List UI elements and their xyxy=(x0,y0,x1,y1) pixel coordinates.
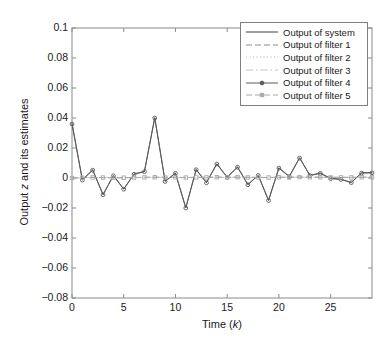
legend-item: Output of filter 4 xyxy=(244,76,364,89)
legend-line-sample xyxy=(244,26,280,38)
y-axis-tick-label: 0.1 xyxy=(28,21,68,33)
x-axis-tick-label: 0 xyxy=(57,301,87,313)
x-axis-tick-label: 25 xyxy=(316,301,346,313)
legend-label: Output of system xyxy=(280,27,355,38)
legend-line-sample xyxy=(244,39,280,51)
chart-legend: Output of systemOutput of filter 1Output… xyxy=(240,22,368,106)
legend-label: Output of filter 2 xyxy=(280,52,351,63)
x-axis-label-suffix: ) xyxy=(238,318,242,330)
y-axis-tick-label: −0.02 xyxy=(28,201,68,213)
x-axis-label: Time (k) xyxy=(72,318,372,330)
x-axis-tick-label: 10 xyxy=(160,301,190,313)
series-4 xyxy=(70,116,374,210)
legend-line-sample xyxy=(244,77,280,89)
y-axis-tick-label: −0.04 xyxy=(28,231,68,243)
legend-item: Output of filter 1 xyxy=(244,39,364,52)
legend-item: Output of system xyxy=(244,26,364,39)
legend-line-sample xyxy=(244,51,280,63)
series-line xyxy=(72,118,372,208)
x-axis-tick-label: 15 xyxy=(212,301,242,313)
x-axis-tick-label: 5 xyxy=(109,301,139,313)
y-axis-label-container: Output z and its estimates xyxy=(0,0,30,342)
legend-item: Output of filter 5 xyxy=(244,89,364,102)
legend-line-sample xyxy=(244,89,280,101)
y-axis-label-variable: z xyxy=(18,184,30,190)
y-axis-tick-label: 0 xyxy=(28,171,68,183)
y-axis-tick-label: 0.08 xyxy=(28,51,68,63)
y-axis-tick-label: −0.06 xyxy=(28,261,68,273)
series-line xyxy=(72,118,372,208)
legend-marker xyxy=(260,81,264,85)
legend-item: Output of filter 3 xyxy=(244,64,364,77)
x-axis-tick-label: 20 xyxy=(264,301,294,313)
legend-label: Output of filter 1 xyxy=(280,39,351,50)
y-axis-tick-label: 0.04 xyxy=(28,111,68,123)
figure-container: Output z and its estimates −0.08−0.06−0.… xyxy=(0,0,390,342)
legend-line-sample xyxy=(244,64,280,76)
x-axis-label-prefix: Time ( xyxy=(202,318,233,330)
y-axis-tick-label: 0.02 xyxy=(28,141,68,153)
legend-marker xyxy=(260,94,263,97)
y-axis-tick-label: 0.06 xyxy=(28,81,68,93)
legend-label: Output of filter 4 xyxy=(280,77,351,88)
legend-label: Output of filter 3 xyxy=(280,65,351,76)
legend-label: Output of filter 5 xyxy=(280,90,351,101)
series-0 xyxy=(72,118,372,208)
legend-item: Output of filter 2 xyxy=(244,51,364,64)
